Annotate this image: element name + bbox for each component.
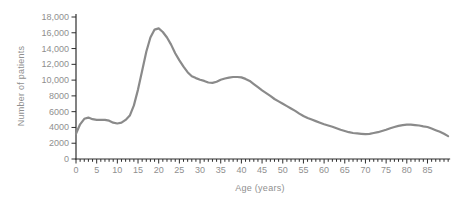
x-tick-label: 75 bbox=[381, 165, 391, 175]
x-axis-title: Age (years) bbox=[235, 183, 284, 193]
x-tick-label: 60 bbox=[319, 165, 329, 175]
y-axis-title: Number of patients bbox=[16, 46, 26, 127]
y-tick-label: 10,000 bbox=[41, 75, 69, 85]
y-tick-label: 14,000 bbox=[41, 44, 69, 54]
x-tick-label: 70 bbox=[360, 165, 370, 175]
y-tick-label: 12,000 bbox=[41, 59, 69, 69]
y-tick-label: 8000 bbox=[49, 91, 69, 101]
patients-by-age-chart: 0200040006000800010,00012,00014,00016,00… bbox=[0, 0, 470, 204]
x-tick-label: 45 bbox=[257, 165, 267, 175]
x-tick-label: 15 bbox=[133, 165, 143, 175]
x-tick-label: 55 bbox=[298, 165, 308, 175]
y-tick-label: 2000 bbox=[49, 138, 69, 148]
y-tick-label: 18,000 bbox=[41, 12, 69, 22]
patients-curve bbox=[76, 28, 448, 136]
y-tick-label: 0 bbox=[64, 154, 69, 164]
x-tick-label: 5 bbox=[94, 165, 99, 175]
y-tick-label: 6000 bbox=[49, 107, 69, 117]
x-tick-label: 25 bbox=[174, 165, 184, 175]
x-tick-label: 35 bbox=[216, 165, 226, 175]
y-tick-label: 16,000 bbox=[41, 28, 69, 38]
x-tick-label: 85 bbox=[422, 165, 432, 175]
y-tick-label: 4000 bbox=[49, 122, 69, 132]
x-tick-label: 80 bbox=[402, 165, 412, 175]
x-tick-label: 40 bbox=[236, 165, 246, 175]
x-tick-label: 10 bbox=[112, 165, 122, 175]
x-tick-label: 0 bbox=[73, 165, 78, 175]
x-tick-label: 30 bbox=[195, 165, 205, 175]
x-tick-label: 50 bbox=[278, 165, 288, 175]
x-tick-label: 65 bbox=[340, 165, 350, 175]
chart-canvas: 0200040006000800010,00012,00014,00016,00… bbox=[0, 0, 470, 204]
x-tick-label: 20 bbox=[154, 165, 164, 175]
